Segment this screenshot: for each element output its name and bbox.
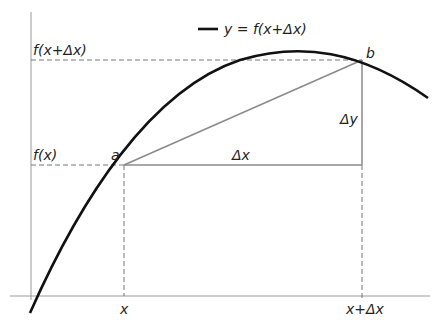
secant-diagram: y = f(x+Δx) f(x+Δx) f(x) a b Δx Δy x x+Δ… — [0, 0, 441, 325]
legend-label: y = f(x+Δx) — [223, 21, 307, 37]
function-curve — [30, 51, 428, 313]
label-x: x — [119, 301, 129, 317]
label-fxdx: f(x+Δx) — [33, 42, 87, 58]
label-delta-x: Δx — [231, 147, 251, 163]
label-point-b: b — [366, 45, 375, 61]
label-point-a: a — [111, 147, 120, 163]
label-delta-y: Δy — [339, 111, 359, 127]
label-fx: f(x) — [33, 147, 57, 163]
label-xdx: x+Δx — [345, 301, 385, 317]
